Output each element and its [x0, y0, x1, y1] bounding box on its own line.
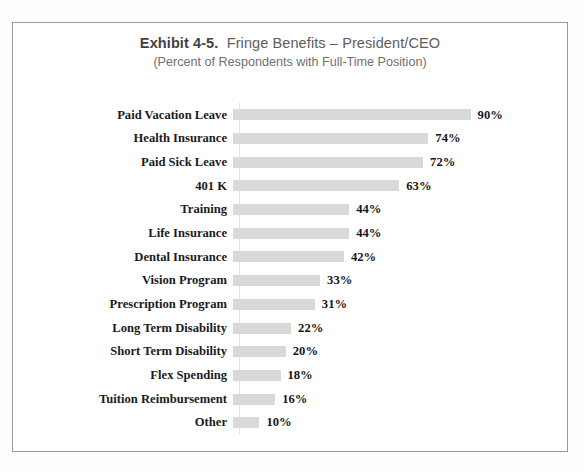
category-label: Long Term Disability [13, 322, 233, 335]
bar-value-label: 18% [288, 369, 313, 382]
category-label: Health Insurance [13, 132, 233, 145]
bar-track: 74% [233, 127, 569, 151]
bar [233, 251, 344, 262]
bar-value-label: 44% [356, 227, 381, 240]
bar-track: 72% [233, 150, 569, 174]
bar-row: Long Term Disability22% [13, 316, 569, 340]
category-label: Paid Sick Leave [13, 156, 233, 169]
bar [233, 133, 428, 144]
bar-row: Other10% [13, 411, 569, 435]
bar [233, 204, 349, 215]
bar-track: 31% [233, 293, 569, 317]
bar-value-label: 42% [351, 251, 376, 264]
category-label: Flex Spending [13, 369, 233, 382]
category-label: Prescription Program [13, 298, 233, 311]
bar [233, 275, 320, 286]
bar [233, 109, 471, 120]
bar-track: 90% [233, 103, 569, 127]
category-label: Other [13, 416, 233, 429]
bar-track: 10% [233, 411, 569, 435]
bar-value-label: 20% [293, 345, 318, 358]
bar-value-label: 22% [298, 322, 323, 335]
bar-row: Tuition Reimbursement16% [13, 387, 569, 411]
bar-row: Dental Insurance42% [13, 245, 569, 269]
bar [233, 228, 349, 239]
bar-track: 42% [233, 245, 569, 269]
category-label: Tuition Reimbursement [13, 393, 233, 406]
bar-value-label: 74% [435, 132, 460, 145]
bar-track: 63% [233, 174, 569, 198]
category-label: Dental Insurance [13, 251, 233, 264]
category-label: Life Insurance [13, 227, 233, 240]
bar-row: Prescription Program31% [13, 293, 569, 317]
bar-value-label: 44% [356, 203, 381, 216]
bar [233, 394, 275, 405]
bar-value-label: 33% [327, 274, 352, 287]
chart-frame: Exhibit 4-5. Fringe Benefits – President… [12, 22, 568, 452]
bar [233, 180, 399, 191]
chart-screenshot: Exhibit 4-5. Fringe Benefits – President… [0, 0, 584, 472]
bar-track: 44% [233, 198, 569, 222]
category-label: 401 K [13, 180, 233, 193]
bar-value-label: 90% [478, 109, 503, 122]
bar-track: 18% [233, 364, 569, 388]
bar-track: 44% [233, 221, 569, 245]
chart-subtitle: (Percent of Respondents with Full-Time P… [13, 55, 567, 69]
bar-value-label: 31% [322, 298, 347, 311]
bar-rows: Paid Vacation Leave90%Health Insurance74… [13, 103, 569, 435]
bar-row: Flex Spending18% [13, 364, 569, 388]
plot-area: Paid Vacation Leave90%Health Insurance74… [13, 95, 569, 445]
chart-title-block: Exhibit 4-5. Fringe Benefits – President… [13, 35, 567, 69]
bar-value-label: 72% [430, 156, 455, 169]
chart-title-exhibit: Exhibit 4-5. [140, 35, 219, 51]
bar [233, 370, 281, 381]
bar [233, 323, 291, 334]
bar [233, 299, 315, 310]
bar [233, 157, 423, 168]
chart-title: Exhibit 4-5. Fringe Benefits – President… [13, 35, 567, 51]
bar [233, 417, 259, 428]
bar-track: 33% [233, 269, 569, 293]
bar-row: 401 K63% [13, 174, 569, 198]
bar-value-label: 16% [282, 393, 307, 406]
bar-value-label: 10% [266, 416, 291, 429]
bar-value-label: 63% [406, 180, 431, 193]
bar-track: 22% [233, 316, 569, 340]
category-label: Short Term Disability [13, 345, 233, 358]
bar-row: Training44% [13, 198, 569, 222]
bar-row: Life Insurance44% [13, 221, 569, 245]
chart-title-main: Fringe Benefits – President/CEO [227, 35, 440, 51]
category-label: Vision Program [13, 274, 233, 287]
bar-track: 16% [233, 387, 569, 411]
bar-row: Vision Program33% [13, 269, 569, 293]
bar-row: Short Term Disability20% [13, 340, 569, 364]
bar-track: 20% [233, 340, 569, 364]
bar-row: Paid Sick Leave72% [13, 150, 569, 174]
bar-row: Paid Vacation Leave90% [13, 103, 569, 127]
category-label: Training [13, 203, 233, 216]
category-label: Paid Vacation Leave [13, 109, 233, 122]
bar [233, 346, 286, 357]
bar-row: Health Insurance74% [13, 127, 569, 151]
